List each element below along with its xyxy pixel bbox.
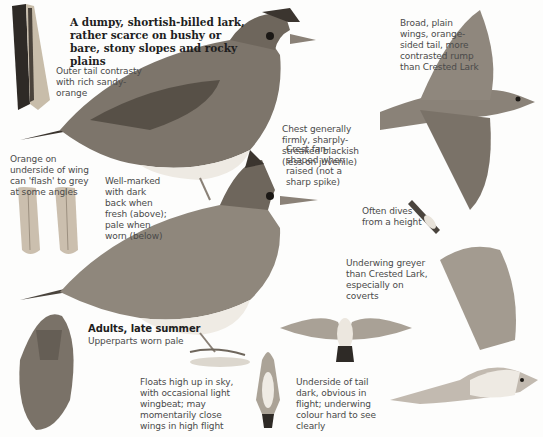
annotation-floats: Floats high up in sky, with occasional l… [140,377,235,432]
soaring-lark-spread [280,318,412,362]
annotation-crest: Crest fan-shaped when raised (not a shar… [286,144,352,188]
annotation-adults-sub: Upperparts worn pale [88,336,198,347]
lark-rear-view [19,314,73,430]
annotation-well-marked: Well-marked with dark back when fresh (a… [105,176,167,242]
annotation-underwing: Underwing greyer than Crested Lark, espe… [346,258,432,302]
annotation-orange-underside: Orange on underside of wing can 'flash' … [10,154,92,198]
section-heading-adults: Adults, late summer [88,323,208,334]
annotation-outer-tail: Outer tail contrasty with rich sandy-ora… [56,66,156,99]
tail-feather-illustration [12,4,50,110]
annotation-dives: Often dives from a height [362,206,424,228]
lark-closed-wings [256,352,280,428]
plate-title: A dumpy, shortish-billed lark, rather sc… [70,16,250,68]
field-guide-plate: A dumpy, shortish-billed lark, rather sc… [0,0,543,437]
annotation-underside-tail: Underside of tail dark, obvious in fligh… [296,377,376,432]
annotation-broad-wings: Broad, plain wings, orange-sided tail, m… [400,18,480,73]
